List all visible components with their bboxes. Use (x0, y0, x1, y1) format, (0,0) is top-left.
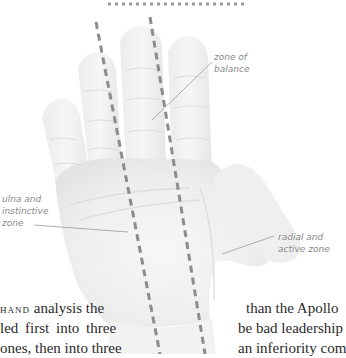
label-line: zone (2, 217, 48, 229)
left-body-column: hand analysis the led first into three o… (0, 298, 122, 358)
ulna-zone-label: ulna and instinctive zone (2, 193, 48, 229)
text-line: than the Apollo (238, 298, 346, 318)
text-line: led first into three (0, 318, 122, 338)
text-line: an inferiority com (238, 338, 346, 358)
label-line: ulna and (2, 193, 48, 205)
label-line: balance (214, 63, 249, 75)
zone-of-balance-label: zone of balance (214, 51, 249, 75)
text-line: ones, then into three (0, 338, 122, 358)
text-fragment: analysis the (30, 300, 104, 316)
smallcaps-word: hand (0, 301, 30, 316)
label-line: active zone (278, 243, 330, 255)
radial-zone-label: radial and active zone (278, 231, 330, 255)
label-line: instinctive (2, 205, 48, 217)
label-line: radial and (278, 231, 330, 243)
right-body-column: than the Apollo be bad leadership an inf… (238, 298, 346, 358)
text-line: hand analysis the (0, 298, 122, 318)
text-line: be bad leadership (238, 318, 346, 338)
label-line: zone of (214, 51, 249, 63)
